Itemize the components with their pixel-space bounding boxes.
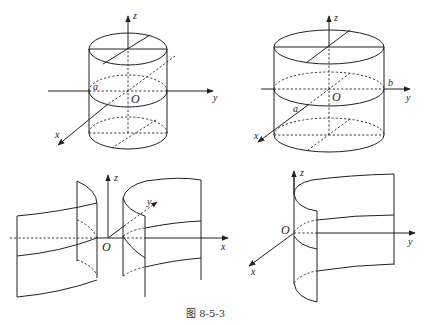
right-sheet-bottom-curve: [145, 258, 201, 267]
right-sheet-top-curve: [123, 178, 201, 198]
x-axis-back: [128, 56, 175, 91]
radius-label-a: a: [93, 81, 98, 92]
left-sheet-middle-curve: [17, 238, 97, 256]
y-label: y: [407, 236, 413, 247]
x-axis: [249, 233, 294, 266]
left-sheet-hidden-lower: [77, 260, 97, 275]
middle-side-curve: [294, 236, 317, 249]
semi-axis-label-a: a: [293, 103, 298, 114]
x-label: x: [220, 241, 226, 252]
right-sheet-side-curve: [123, 236, 145, 258]
z-label: z: [333, 12, 338, 23]
left-sheet-hidden-upper: [77, 220, 97, 238]
hidden-lower: [294, 271, 317, 283]
panel-hyperbolic-cylinder: z x y O: [10, 172, 228, 297]
panel-parabolic-cylinder: z y x O: [249, 167, 415, 302]
bottom-ellipse-front: [89, 133, 167, 149]
bottom-curve: [294, 283, 317, 302]
x-axis-hidden: [308, 89, 329, 105]
x-axis: [58, 104, 108, 145]
right-sheet-middle-curve: [145, 221, 201, 228]
origin-label: O: [332, 90, 341, 104]
left-sheet-bottom-curve: [17, 280, 97, 297]
figure-caption: 图 8-5-3: [186, 308, 225, 319]
x-label: x: [253, 130, 259, 141]
top-curve: [294, 174, 394, 194]
figure-canvas: z x O a z y b: [0, 0, 427, 325]
right-sheet-hidden-upper: [123, 228, 145, 236]
x-label: x: [250, 266, 256, 277]
semi-axis-label-b: b: [388, 77, 393, 88]
panel-elliptic-cylinder: z y b x O a: [253, 12, 411, 152]
x-axis: [258, 105, 308, 142]
x-axis-back: [329, 73, 350, 89]
y-label: y: [405, 92, 411, 103]
upper-curve: [317, 215, 394, 220]
origin-label: O: [281, 223, 290, 237]
lower-curve: [317, 264, 394, 271]
y-label: y: [146, 196, 152, 207]
origin-label: O: [102, 240, 111, 254]
z-label: z: [132, 10, 137, 21]
y-label-panel1: y: [212, 92, 218, 103]
z-label: z: [113, 172, 118, 183]
panel-circular-cylinder: z x O a: [48, 10, 213, 149]
bottom-ellipse-front: [274, 135, 384, 152]
x-axis-hidden: [108, 91, 128, 104]
origin-label: O: [131, 92, 140, 106]
bottom-diagonal: [112, 120, 156, 148]
hidden-upper: [294, 220, 317, 232]
y-axis-near: [108, 226, 124, 238]
z-label: z: [299, 167, 304, 178]
x-label: x: [54, 129, 60, 140]
right-sheet-hidden-lower: [123, 267, 145, 276]
left-sheet-front-edge: [77, 181, 97, 278]
bottom-diagonal: [308, 119, 350, 150]
left-sheet-top-curve: [17, 203, 97, 216]
